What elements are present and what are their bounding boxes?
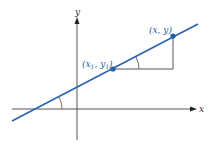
- y-axis-label: y: [74, 7, 81, 17]
- angle-arc-triangle: [136, 57, 139, 69]
- x-axis-label: x: [199, 104, 204, 114]
- y-axis-arrow-icon: [75, 17, 80, 24]
- point-label-x1-y1: (x1, y1): [82, 59, 113, 70]
- sloped-line: [12, 24, 198, 121]
- angle-arc-inclination: [59, 97, 62, 109]
- point-label-x-y: (x, y): [149, 25, 172, 35]
- x-axis-arrow-icon: [190, 107, 197, 112]
- slope-diagram: y x (x1, y1) (x, y): [0, 0, 217, 146]
